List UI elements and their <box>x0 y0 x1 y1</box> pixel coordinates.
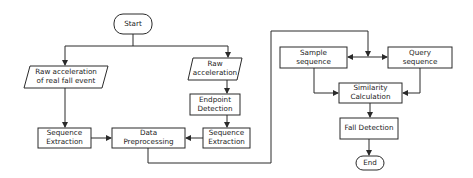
edge-query-similarity <box>403 68 420 93</box>
seq-right-label: Sequence Extraction <box>203 128 250 148</box>
endpoint-label: Endpoint Detection <box>190 94 240 115</box>
edge-sample-similarity <box>314 68 338 93</box>
edge-start-left <box>65 46 133 65</box>
raw-acc-label: Raw acceleration <box>188 58 242 80</box>
end-label: End <box>356 156 384 170</box>
seq-left-label: Sequence Extraction <box>38 128 91 148</box>
edge-start-right <box>133 46 228 57</box>
preproc-label: Data Preprocessing <box>112 128 185 148</box>
query-label: Query sequence <box>388 47 452 68</box>
sample-label: Sample sequence <box>280 47 347 68</box>
fall-detect-label: Fall Detection <box>340 118 398 139</box>
flowchart-canvas <box>0 0 473 178</box>
start-label: Start <box>114 14 152 34</box>
similarity-label: Similarity Calculation <box>339 83 402 103</box>
raw-fall-label: Raw acceleration of real fall event <box>26 66 106 88</box>
